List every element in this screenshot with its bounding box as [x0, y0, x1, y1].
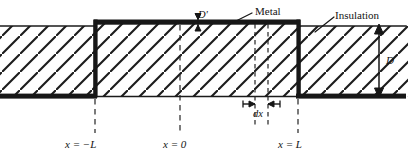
axis-label-x-zero: x = 0 — [163, 139, 186, 150]
dx-label: dx — [253, 109, 263, 120]
metal-label: Metal — [255, 6, 281, 17]
cross-section-figure: Metal Insulation D' D dx x = −L x = 0 x … — [0, 0, 408, 156]
insulation-label: Insulation — [335, 10, 379, 21]
diagram-canvas — [0, 0, 408, 156]
d-label: D — [386, 55, 394, 66]
insulation-hatch-fill — [0, 18, 408, 100]
d-prime-label: D' — [198, 10, 208, 21]
dx-dimension-arrows — [243, 101, 280, 108]
axis-label-x-L: x = L — [278, 139, 302, 150]
axis-label-x-neg-L: x = −L — [65, 139, 96, 150]
